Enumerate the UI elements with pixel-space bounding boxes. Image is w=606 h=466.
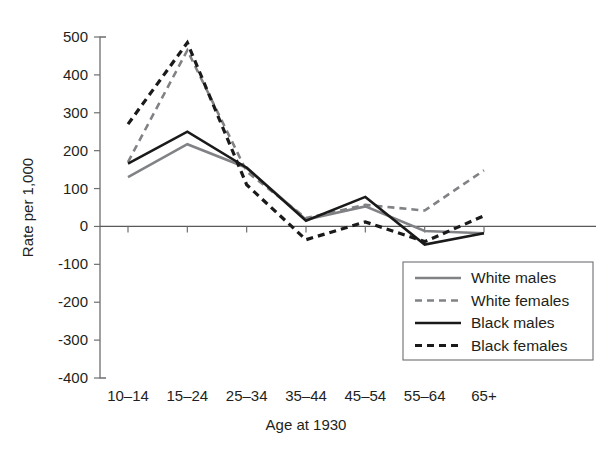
y-axis-ticks: 5004003002001000-100-200-300-400 [58,28,100,386]
series-line-black-females [128,43,484,242]
x-tick-label: 45–54 [344,387,386,404]
x-tick-label: 25–34 [226,387,268,404]
legend-label-black-females: Black females [471,337,568,354]
y-tick-label: 0 [80,217,88,234]
legend-label-white-males: White males [471,269,557,286]
y-tick-label: -100 [58,255,88,272]
legend-label-white-females: White females [471,292,569,309]
chart-figure: 5004003002001000-100-200-300-400 10–1415… [0,0,606,466]
line-chart-svg: 5004003002001000-100-200-300-400 10–1415… [0,0,606,466]
data-series-group [128,43,484,245]
x-tick-label: 10–14 [107,387,149,404]
y-tick-label: 500 [63,28,88,45]
y-tick-label: 400 [63,66,88,83]
y-tick-label: 100 [63,180,88,197]
x-tick-label: 15–24 [166,387,208,404]
x-tick-label: 65+ [471,387,497,404]
y-axis-title: Rate per 1,000 [19,158,36,257]
y-tick-label: -400 [58,369,88,386]
x-axis-title: Age at 1930 [266,416,347,433]
legend-label-black-males: Black males [471,314,555,331]
y-tick-label: -300 [58,331,88,348]
x-tick-label: 35–44 [285,387,327,404]
y-tick-label: 200 [63,142,88,159]
chart-legend: White malesWhite femalesBlack malesBlack… [403,262,593,360]
y-tick-label: 300 [63,104,88,121]
y-axis-line [100,37,106,378]
y-tick-label: -200 [58,293,88,310]
x-tick-label: 55–64 [404,387,446,404]
